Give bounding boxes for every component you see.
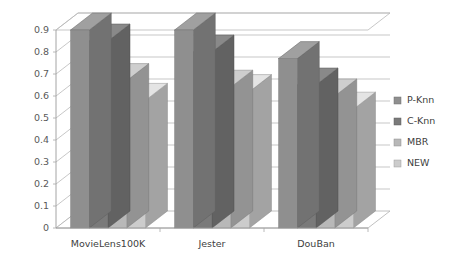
chart-legend: P-KnnC-KnnMBRNEW [394, 94, 435, 168]
x-tick-label-2: DouBan [297, 238, 335, 249]
bar-DouBan-P-Knn-side [297, 42, 319, 228]
legend-label-NEW: NEW [407, 157, 430, 168]
legend-swatch-NEW [394, 160, 401, 167]
bar-MovieLens100K-P-Knn [71, 30, 90, 228]
bar-MovieLens100K-P-Knn-side [89, 13, 111, 228]
x-tick-label-0: MovieLens100K [71, 238, 146, 249]
y-tick-label-9: 0 [43, 222, 49, 233]
y-tick-label-7: 0.2 [34, 178, 49, 189]
y-tick-label-2: 0.7 [34, 68, 49, 79]
bar-Jester-P-Knn-side [193, 13, 215, 228]
x-tick-label-1: Jester [197, 238, 225, 249]
chart-container: 0.90.80.70.60.50.40.30.20.10MovieLens100… [0, 0, 455, 270]
y-tick-label-1: 0.8 [34, 46, 49, 57]
y-tick-label-8: 0.1 [34, 200, 49, 211]
y-tick-label-5: 0.4 [34, 134, 49, 145]
legend-swatch-C-Knn [394, 118, 401, 125]
legend-swatch-P-Knn [394, 97, 401, 104]
legend-swatch-MBR [394, 139, 401, 146]
legend-label-P-Knn: P-Knn [407, 94, 434, 105]
bar-Jester-P-Knn [175, 30, 194, 228]
legend-label-MBR: MBR [407, 136, 429, 147]
bar-chart: 0.90.80.70.60.50.40.30.20.10MovieLens100… [0, 0, 455, 270]
y-tick-label-6: 0.3 [34, 156, 49, 167]
y-tick-label-3: 0.6 [34, 90, 49, 101]
y-tick-label-4: 0.5 [34, 112, 49, 123]
y-tick-label-0: 0.9 [34, 24, 49, 35]
chart-bars [71, 13, 376, 228]
legend-label-C-Knn: C-Knn [407, 115, 435, 126]
bar-DouBan-P-Knn [279, 59, 298, 228]
